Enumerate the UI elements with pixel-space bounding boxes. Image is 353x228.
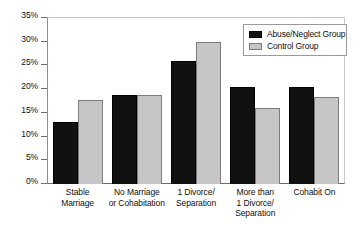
bar [112,95,137,184]
legend-item-abuse-neglect-group: Abuse/Neglect Group [249,29,341,39]
x-axis-label: No Marriageor Cohabitation [107,187,166,219]
y-axis: 35%30%25%20%15%10%5%0% [0,17,47,184]
y-axis-tick-label: 25% [21,58,38,67]
bar [314,97,339,184]
x-axis-label: More than1 Divorce/Separation [226,187,285,219]
bar-group [107,18,166,184]
legend-item-label: Abuse/Neglect Group [267,30,345,39]
y-axis-tick-label: 5% [26,153,38,162]
legend-item-label: Control Group [267,42,318,51]
y-axis-tick-label: 10% [21,130,38,139]
bar-chart: 35%30%25%20%15%10%5%0% StableMarriageNo … [0,0,353,228]
y-axis-tick-mark [41,112,47,113]
x-axis-label: StableMarriage [48,187,107,219]
x-axis-label: Cohabit On [285,187,344,219]
y-axis-tick-label: 15% [21,106,38,115]
y-axis-tick-mark [41,183,47,184]
y-axis-tick-mark [41,88,47,89]
y-axis-tick-label: 20% [21,82,38,91]
x-axis-labels: StableMarriageNo Marriageor Cohabitation… [48,187,344,219]
bar [255,108,280,184]
bar [230,87,255,184]
y-axis-tick-label: 0% [26,177,38,186]
y-axis-tick-mark [41,136,47,137]
y-axis-tick-label: 35% [21,11,38,20]
bar-group [166,18,225,184]
bar-group [48,18,107,184]
gray-square-icon [249,43,262,50]
y-axis-tick-mark [41,17,47,18]
bar [137,95,162,184]
y-axis-tick-mark [41,41,47,42]
legend-item-control-group: Control Group [249,41,341,51]
bar [171,61,196,184]
y-axis-tick-label: 30% [21,35,38,44]
x-axis-label: 1 Divorce/Separation [166,187,225,219]
chart-legend: Abuse/Neglect Group Control Group [243,24,347,56]
y-axis-tick-mark [41,64,47,65]
y-axis-tick-mark [41,159,47,160]
black-square-icon [249,31,262,38]
bar [289,87,314,184]
bar [196,42,221,184]
bar [53,122,78,184]
bar [78,100,103,184]
